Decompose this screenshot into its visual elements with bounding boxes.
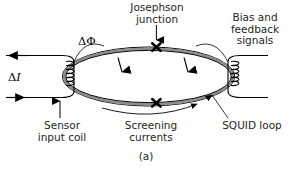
squid-loop-inner-edge (66, 50, 231, 102)
symbol-delta-phi: ΔΦ (78, 34, 96, 48)
screening-current-arrow-right (184, 58, 188, 73)
squid-loop-leader (212, 95, 228, 118)
figure-caption: (a) (134, 150, 158, 162)
symbol-delta-i: ΔI (8, 70, 21, 84)
sensor-input-coil (30, 56, 74, 98)
squid-loop-ring (63, 47, 235, 106)
label-josephson-junction: Josephson junction (112, 2, 202, 25)
sensor-coil-turns (66, 61, 74, 85)
delta-i-variable: I (16, 70, 21, 84)
label-sensor-input-coil: Sensor input coil (20, 120, 104, 143)
screening-current-arrow-left (118, 58, 122, 73)
label-squid-loop: SQUID loop (216, 120, 288, 132)
bias-coil-turns (231, 61, 239, 85)
squid-loop-band (64, 49, 233, 105)
label-screening-currents: Screening currents (108, 120, 194, 143)
squid-sensor-diagram: Josephson junction Bias and feedback sig… (0, 0, 289, 180)
label-bias-and-feedback-signals: Bias and feedback signals (222, 12, 288, 47)
